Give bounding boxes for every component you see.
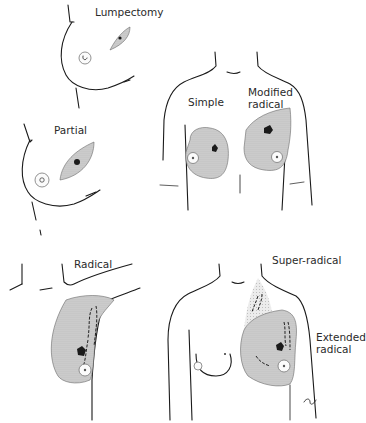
tumor-icon [118, 36, 121, 39]
nipple-icon [79, 52, 91, 64]
label-simple: Simple [188, 96, 224, 108]
label-lumpectomy: Lumpectomy [95, 6, 163, 18]
partial-figure [22, 124, 100, 220]
super-extended-radical-figure [168, 264, 316, 420]
excision-area-modified-radical [244, 108, 291, 170]
label-modified-radical: Modified radical [248, 86, 293, 110]
label-modified-line1: Modified [248, 86, 293, 98]
label-modified-line2: radical [248, 98, 293, 110]
lumpectomy-figure [61, 5, 134, 108]
simple-modified-figure [160, 52, 312, 210]
nipple-icon [35, 173, 49, 187]
label-extended-line1: Extended [316, 331, 366, 343]
label-extended-line2: radical [316, 343, 366, 355]
nipple-icon [194, 362, 202, 370]
label-radical: Radical [74, 258, 112, 270]
label-super-radical: Super-radical [272, 254, 341, 266]
label-partial: Partial [54, 124, 87, 136]
label-extended-radical: Extended radical [316, 331, 366, 355]
tumor-icon [74, 159, 80, 165]
